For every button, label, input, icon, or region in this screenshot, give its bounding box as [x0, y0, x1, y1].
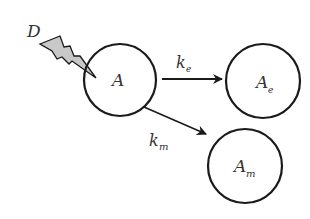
- edge-ke-subscript: e: [186, 64, 191, 74]
- lightning-bolt-icon: [40, 36, 96, 78]
- edge-km-label: k: [149, 131, 159, 150]
- node-am: A m: [208, 129, 282, 203]
- edge-a-to-am: k m: [144, 107, 206, 152]
- node-a: A: [84, 44, 156, 116]
- edge-ke-label: k: [176, 53, 186, 72]
- node-ae-label: A: [254, 72, 268, 92]
- diagram-canvas: D A A e A m k e k m: [0, 0, 310, 219]
- node-ae: A e: [226, 44, 300, 118]
- node-am-label: A: [232, 156, 246, 176]
- source-label-d: D: [26, 21, 41, 41]
- node-ae-subscript: e: [268, 85, 273, 95]
- node-am-subscript: m: [246, 168, 255, 179]
- edge-a-to-ae: k e: [162, 53, 222, 79]
- node-a-label: A: [110, 70, 124, 90]
- edge-km-subscript: m: [159, 141, 168, 152]
